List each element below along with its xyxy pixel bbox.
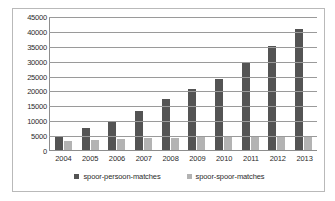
- bar: [277, 137, 285, 150]
- bar: [55, 136, 63, 150]
- bar-group: [50, 17, 77, 150]
- bar-group: [210, 17, 237, 150]
- bar-group: [264, 17, 291, 150]
- gridline: [49, 136, 317, 137]
- y-axis-tick-label: 40000: [27, 27, 47, 36]
- x-axis-tick-label: 2005: [77, 154, 104, 168]
- y-axis-tick-label: 0: [43, 147, 47, 156]
- x-axis-tick-label: 2009: [184, 154, 211, 168]
- y-axis-tick-label: 25000: [27, 72, 47, 81]
- x-axis-line: [49, 150, 317, 151]
- bar-group: [103, 17, 130, 150]
- bar: [304, 137, 312, 150]
- bar-group: [157, 17, 184, 150]
- gridline: [49, 77, 317, 78]
- bar: [224, 137, 232, 150]
- y-axis-tick-label: 20000: [27, 87, 47, 96]
- x-axis-tick-label: 2013: [291, 154, 318, 168]
- bar: [144, 138, 152, 150]
- chart-container: 4500040000350003000025000200001500010000…: [12, 8, 325, 192]
- y-axis-labels: 4500040000350003000025000200001500010000…: [15, 17, 47, 151]
- legend-label: spoor-spoor-matches: [196, 172, 265, 181]
- x-axis-tick-label: 2012: [264, 154, 291, 168]
- x-axis-tick-label: 2010: [211, 154, 238, 168]
- legend-item: spoor-spoor-matches: [187, 172, 265, 181]
- plot-area-wrapper: 4500040000350003000025000200001500010000…: [13, 9, 326, 193]
- gridline: [49, 47, 317, 48]
- bar-group: [237, 17, 264, 150]
- gridline: [49, 91, 317, 92]
- gridline: [49, 62, 317, 63]
- bar-group: [290, 17, 317, 150]
- bar: [64, 141, 72, 150]
- gridline: [49, 106, 317, 107]
- bar: [91, 140, 99, 150]
- y-axis-tick-label: 30000: [27, 57, 47, 66]
- legend-swatch-icon: [74, 174, 79, 179]
- bar: [135, 111, 143, 150]
- x-axis-tick-label: 2011: [238, 154, 265, 168]
- chart-legend: spoor-persoon-matchesspoor-spoor-matches: [13, 172, 326, 181]
- gridline: [49, 32, 317, 33]
- y-axis-tick-label: 45000: [27, 13, 47, 22]
- y-axis-tick-label: 5000: [31, 132, 47, 141]
- y-axis-tick-label: 15000: [27, 102, 47, 111]
- bar: [171, 138, 179, 151]
- bar: [117, 139, 125, 150]
- bar-group: [77, 17, 104, 150]
- x-axis-tick-label: 2008: [157, 154, 184, 168]
- x-axis-labels: 2004200520062007200820092010201120122013: [50, 154, 318, 168]
- y-axis-tick-label: 10000: [27, 117, 47, 126]
- bar-groups: [50, 17, 317, 150]
- gridline: [49, 17, 317, 18]
- legend-item: spoor-persoon-matches: [74, 172, 160, 181]
- x-axis-tick-label: 2004: [50, 154, 77, 168]
- bar-group: [130, 17, 157, 150]
- y-axis-tick-label: 35000: [27, 42, 47, 51]
- bar: [251, 137, 259, 150]
- x-axis-tick-label: 2006: [104, 154, 131, 168]
- gridline: [49, 121, 317, 122]
- bar: [197, 137, 205, 150]
- bar: [188, 89, 196, 150]
- bar: [82, 128, 90, 150]
- bar: [215, 79, 223, 150]
- plot-area: [49, 17, 317, 151]
- legend-swatch-icon: [187, 174, 192, 179]
- x-axis-tick-label: 2007: [130, 154, 157, 168]
- bar-group: [184, 17, 211, 150]
- legend-label: spoor-persoon-matches: [83, 172, 160, 181]
